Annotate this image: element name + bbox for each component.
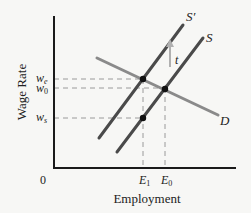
tick-e0: E0: [160, 173, 172, 188]
y-axis-title: Wage Rate: [14, 64, 29, 121]
demand-label: D: [219, 113, 230, 128]
tax-label: t: [175, 53, 179, 67]
x-axis-title: Employment: [113, 191, 181, 206]
demand-curve: [97, 58, 218, 115]
supply-label: S: [206, 30, 213, 45]
point-new-equilibrium: [140, 76, 146, 82]
tick-e1: E1: [138, 173, 150, 188]
supply-shifted-label: S′: [186, 9, 196, 24]
point-supplier-wage: [140, 115, 146, 121]
origin-label: 0: [40, 173, 46, 187]
tick-ws: ws: [36, 110, 47, 125]
tax-shift-arrow: [166, 39, 174, 67]
tax-incidence-diagram: S′ S D t we w0 ws E1 E0 0 Wage Rate Empl…: [0, 0, 251, 213]
point-original-equilibrium: [162, 86, 168, 92]
